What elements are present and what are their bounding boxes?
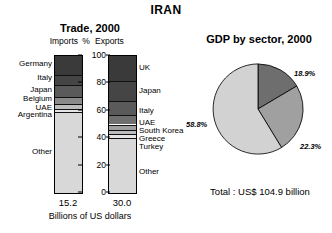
exports-label-italy: Italy	[139, 107, 154, 115]
axis-tick-80: 80	[97, 78, 106, 87]
gdp-pie-svg	[212, 63, 304, 155]
imports-segment-japan	[55, 85, 82, 97]
axis-tick-100: 100	[92, 51, 106, 60]
axis-tickmark-60-right	[106, 109, 110, 110]
imports-segment-italy	[55, 75, 82, 85]
gdp-pie	[212, 63, 304, 155]
imports-label-germany: Germany	[19, 60, 52, 68]
imports-segment-belgium	[55, 97, 82, 104]
axis-tick-20: 20	[97, 160, 106, 169]
imports-stacked-bar	[54, 55, 83, 194]
axis-tickmark-40-left	[78, 137, 82, 138]
axis-tickmark-100-right	[106, 55, 110, 56]
pie-label-58-8: 58.8%	[186, 120, 207, 129]
axis-tickmark-80-right	[106, 82, 110, 83]
exports-label-other: Other	[139, 168, 159, 176]
axis-tickmark-20-left	[78, 164, 82, 165]
figure-root: IRAN Trade, 2000 Imports % Exports	[0, 0, 332, 233]
imports-label-japan: Japan	[30, 86, 52, 94]
exports-segment-italy	[109, 101, 136, 115]
exports-segment-uae	[109, 115, 136, 125]
exports-segment-other	[109, 138, 136, 193]
axis-tickmark-80-left	[78, 82, 82, 83]
axis-tickmark-100-left	[78, 55, 82, 56]
percent-axis: 100 80 60 40 20 0	[84, 50, 106, 200]
imports-total-value: 15.2	[38, 197, 98, 208]
imports-label-italy: Italy	[37, 74, 52, 82]
exports-label-japan: Japan	[139, 87, 161, 95]
exports-label-turkey: Turkey	[139, 143, 163, 151]
percent-axis-header: %	[80, 36, 92, 46]
imports-segment-germany	[55, 56, 82, 75]
exports-segment-japan	[109, 81, 136, 102]
exports-segment-uk	[109, 56, 136, 81]
pie-label-18-9: 18.9%	[294, 69, 315, 78]
gdp-chart-title: GDP by sector, 2000	[186, 33, 332, 45]
axis-tick-60: 60	[97, 106, 106, 115]
exports-stacked-bar	[108, 55, 137, 194]
trade-axis-caption: Billions of US dollars	[10, 211, 170, 221]
gdp-total-text: Total : US$ 104.9 billion	[190, 186, 330, 197]
exports-column-header: Exports	[95, 36, 141, 46]
exports-total-value: 30.0	[92, 197, 152, 208]
imports-label-argentina: Argentina	[18, 111, 52, 119]
axis-tickmark-0-left	[78, 192, 82, 193]
axis-tickmark-40-right	[106, 137, 110, 138]
axis-tickmark-60-left	[78, 109, 82, 110]
axis-tickmark-0-right	[106, 192, 110, 193]
pie-label-22-3: 22.3%	[300, 142, 321, 151]
axis-tick-40: 40	[97, 133, 106, 142]
exports-label-uk: UK	[139, 64, 150, 72]
imports-segment-other	[55, 112, 82, 193]
axis-tickmark-20-right	[106, 164, 110, 165]
imports-label-other: Other	[32, 148, 52, 156]
